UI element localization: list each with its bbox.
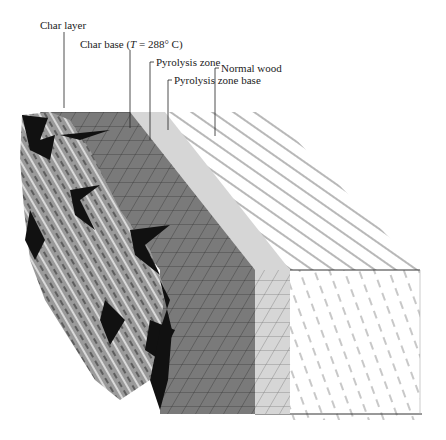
label-pyrolysis-zone: Pyrolysis zone bbox=[156, 56, 220, 68]
label-normal-wood: Normal wood bbox=[221, 62, 282, 74]
label-pyrolysis-zone-base: Pyrolysis zone base bbox=[174, 74, 261, 86]
label-char-layer: Char layer bbox=[40, 19, 86, 31]
label-char-base: Char base (T = 288° C) bbox=[80, 38, 183, 50]
